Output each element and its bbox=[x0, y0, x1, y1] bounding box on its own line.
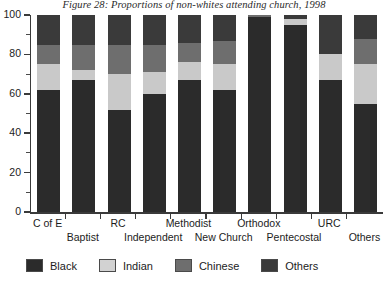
legend-item-indian: Indian bbox=[99, 259, 153, 272]
bar-baptist bbox=[72, 15, 95, 212]
bar-segment-black bbox=[213, 90, 236, 212]
bar-segment-others bbox=[108, 15, 131, 45]
bar-segment-black bbox=[143, 94, 166, 212]
bar-segment-chinese bbox=[248, 15, 271, 17]
bar-segment-chinese bbox=[72, 45, 95, 71]
bar-segment-chinese bbox=[178, 43, 201, 63]
bar-segment-indian bbox=[284, 19, 307, 25]
x-axis-label-independent: Independent bbox=[124, 231, 182, 243]
bar-segment-chinese bbox=[213, 41, 236, 65]
x-axis-tick bbox=[135, 212, 136, 219]
x-axis-tick bbox=[346, 212, 347, 219]
legend-swatch-chinese bbox=[175, 259, 192, 272]
x-axis-label-methodist: Methodist bbox=[166, 217, 212, 229]
chart-legend: BlackIndianChineseOthers bbox=[26, 259, 340, 272]
bar-segment-black bbox=[72, 80, 95, 212]
bar-segment-chinese bbox=[37, 45, 60, 65]
y-axis-tick bbox=[24, 54, 30, 56]
bar-segment-black bbox=[319, 80, 342, 212]
y-axis-label: 100 bbox=[0, 8, 21, 20]
bar-urc bbox=[319, 15, 342, 212]
x-axis-tick bbox=[65, 212, 66, 219]
bar-segment-others bbox=[143, 15, 166, 45]
legend-item-black: Black bbox=[26, 259, 77, 272]
y-axis-label: 60 bbox=[0, 87, 21, 99]
y-axis-label: 20 bbox=[0, 166, 21, 178]
y-axis-tick bbox=[24, 14, 30, 16]
y-axis-label: 40 bbox=[0, 126, 21, 138]
legend-item-others: Others bbox=[261, 259, 318, 272]
bar-segment-others bbox=[284, 15, 307, 19]
legend-label: Others bbox=[285, 260, 318, 272]
x-axis-label-orthodox: Orthodox bbox=[237, 217, 280, 229]
x-axis-label-new-church: New Church bbox=[195, 231, 253, 243]
y-axis-tick bbox=[24, 172, 30, 174]
bar-segment-black bbox=[284, 25, 307, 212]
bar-segment-black bbox=[108, 110, 131, 212]
bar-orthodox bbox=[248, 15, 271, 212]
bar-c-of-e bbox=[37, 15, 60, 212]
y-axis-minor-tick bbox=[26, 152, 30, 153]
bar-segment-indian bbox=[319, 54, 342, 80]
y-axis-minor-tick bbox=[26, 74, 30, 75]
y-axis-minor-tick bbox=[26, 34, 30, 35]
bar-segment-chinese bbox=[108, 45, 131, 75]
legend-label: Chinese bbox=[199, 260, 239, 272]
x-axis-label-others: Others bbox=[349, 231, 381, 243]
bar-rc bbox=[108, 15, 131, 212]
bar-segment-others bbox=[72, 15, 95, 45]
bar-segment-indian bbox=[143, 72, 166, 94]
bar-pentecostal bbox=[284, 15, 307, 212]
bar-independent bbox=[143, 15, 166, 212]
bar-segment-indian bbox=[72, 70, 95, 80]
legend-label: Indian bbox=[123, 260, 153, 272]
bar-methodist bbox=[178, 15, 201, 212]
y-axis-tick bbox=[24, 132, 30, 134]
bar-segment-black bbox=[37, 90, 60, 212]
y-axis-minor-tick bbox=[26, 192, 30, 193]
plot-area bbox=[30, 15, 383, 212]
legend-swatch-indian bbox=[99, 259, 116, 272]
bar-segment-others bbox=[37, 15, 60, 45]
x-axis-label-pentecostal: Pentecostal bbox=[267, 231, 322, 243]
x-axis-tick bbox=[311, 212, 312, 219]
bar-segment-indian bbox=[178, 62, 201, 80]
bar-segment-indian bbox=[213, 64, 236, 90]
y-axis-minor-tick bbox=[26, 113, 30, 114]
bar-segment-chinese bbox=[354, 39, 377, 65]
y-axis-tick bbox=[24, 93, 30, 95]
bar-segment-black bbox=[248, 17, 271, 212]
bar-others bbox=[354, 15, 377, 212]
bar-segment-black bbox=[178, 80, 201, 212]
bar-segment-others bbox=[213, 15, 236, 41]
bar-segment-others bbox=[354, 15, 377, 39]
figure-container: Figure 28: Proportions of non-whites att… bbox=[0, 0, 388, 284]
x-axis-label-baptist: Baptist bbox=[67, 231, 99, 243]
legend-swatch-black bbox=[26, 259, 43, 272]
x-axis-label-rc: RC bbox=[110, 217, 125, 229]
x-axis-label-urc: URC bbox=[318, 217, 341, 229]
bar-segment-indian bbox=[37, 64, 60, 90]
bar-segment-others bbox=[319, 15, 342, 54]
legend-swatch-others bbox=[261, 259, 278, 272]
bar-segment-indian bbox=[108, 74, 131, 109]
x-axis-tick bbox=[100, 212, 101, 219]
bar-segment-black bbox=[354, 104, 377, 212]
figure-title: Figure 28: Proportions of non-whites att… bbox=[0, 0, 388, 10]
legend-label: Black bbox=[50, 260, 77, 272]
legend-item-chinese: Chinese bbox=[175, 259, 239, 272]
bar-segment-others bbox=[178, 15, 201, 43]
bar-segment-chinese bbox=[143, 45, 166, 73]
bar-new-church bbox=[213, 15, 236, 212]
y-axis-label: 0 bbox=[0, 205, 21, 217]
y-axis-tick bbox=[24, 211, 30, 213]
bar-segment-indian bbox=[354, 64, 377, 103]
x-axis-label-c-of-e: C of E bbox=[33, 217, 62, 229]
y-axis-label: 80 bbox=[0, 47, 21, 59]
